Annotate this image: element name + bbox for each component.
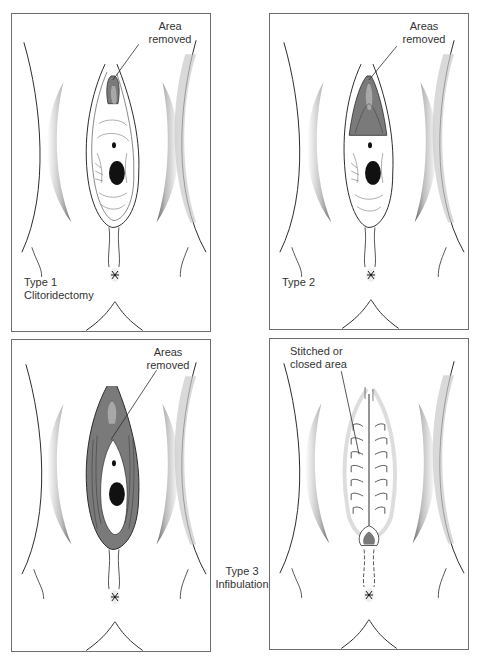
type-name: Type 1 bbox=[24, 276, 94, 289]
callout-line1: Areas bbox=[394, 20, 454, 33]
callout-line2: removed bbox=[140, 33, 200, 46]
type3-removed-anatomy-illustration bbox=[12, 340, 210, 651]
callout-line1: Area bbox=[140, 20, 200, 33]
type3-stitched-anatomy-illustration bbox=[270, 339, 468, 649]
callout-label: Area removed bbox=[140, 20, 200, 46]
panel-type3-removed: Areas removed bbox=[11, 339, 211, 652]
type-description: Clitoridectomy bbox=[24, 289, 94, 302]
panel-type1: Area removed Type 1 Clitoridectomy bbox=[11, 13, 211, 332]
type-description: Infibulation bbox=[214, 578, 270, 591]
type-name: Type 3 bbox=[214, 565, 270, 578]
panel-type2: Areas removed Type 2 bbox=[269, 13, 469, 330]
type-label: Type 1 Clitoridectomy bbox=[24, 276, 94, 302]
callout-line2: removed bbox=[138, 359, 198, 372]
callout-line1: Areas bbox=[138, 346, 198, 359]
type-name: Type 2 bbox=[282, 276, 315, 289]
callout-label: Areas removed bbox=[138, 346, 198, 372]
callout-line1: Stitched or bbox=[290, 345, 360, 358]
panel-type3-stitched: Stitched or closed area bbox=[269, 338, 469, 650]
callout-line2: removed bbox=[394, 33, 454, 46]
type-label: Type 2 bbox=[282, 276, 315, 289]
type3-label: Type 3 Infibulation bbox=[214, 565, 270, 591]
callout-label: Areas removed bbox=[394, 20, 454, 46]
callout-line2: closed area bbox=[290, 358, 360, 371]
callout-label: Stitched or closed area bbox=[290, 345, 360, 371]
